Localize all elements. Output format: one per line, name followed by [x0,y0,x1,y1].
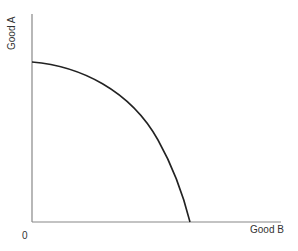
y-axis-label-box: Good A [2,2,22,52]
ppf-chart [0,0,298,251]
origin-label: 0 [22,230,28,241]
x-axis-label: Good B [250,224,284,235]
ppf-curve [32,62,190,222]
y-axis-label: Good A [6,17,17,50]
